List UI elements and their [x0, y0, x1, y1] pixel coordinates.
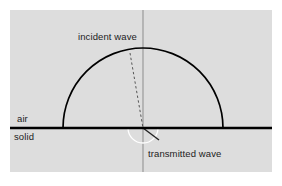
label-incident-wave: incident wave: [78, 31, 137, 42]
incident-ray: [130, 53, 143, 128]
label-air: air: [17, 113, 28, 124]
diagram-graphics: [0, 0, 282, 186]
label-transmitted-wave: transmitted wave: [148, 148, 221, 159]
label-solid: solid: [14, 131, 34, 142]
figure-root: incident wave air solid transmitted wave: [0, 0, 282, 186]
